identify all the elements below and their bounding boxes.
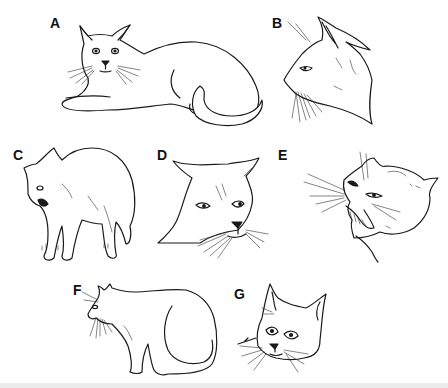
bottom-strip <box>0 383 448 388</box>
cat-alert-front-face-drawing <box>0 0 448 388</box>
